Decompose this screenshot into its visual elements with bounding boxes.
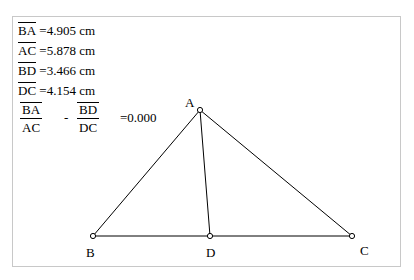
point-b[interactable] xyxy=(90,233,95,238)
label-c: C xyxy=(360,244,369,257)
point-d[interactable] xyxy=(207,233,212,238)
point-c[interactable] xyxy=(349,233,354,238)
segment-ab[interactable] xyxy=(93,110,200,236)
label-b: B xyxy=(86,246,95,259)
label-a: A xyxy=(185,96,194,109)
triangle-diagram xyxy=(0,0,414,280)
point-a[interactable] xyxy=(197,107,202,112)
segment-ad[interactable] xyxy=(200,110,210,236)
segment-ac[interactable] xyxy=(200,110,352,236)
label-d: D xyxy=(206,246,215,259)
